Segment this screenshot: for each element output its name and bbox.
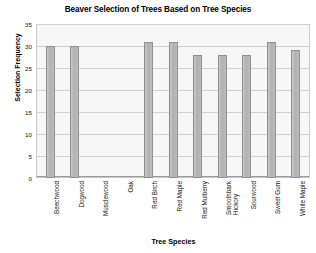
- x-tick-slot: Red Mulberry: [185, 178, 210, 236]
- x-tick-slot: Sourwood: [234, 178, 259, 236]
- bar-slot: [210, 24, 235, 178]
- y-tick-label: 5: [0, 153, 32, 160]
- bar-chart-figure: Beaver Selection of Trees Based on Tree …: [0, 0, 316, 253]
- bar-slot: [136, 24, 161, 178]
- y-tick-label: 20: [0, 87, 32, 94]
- bar: [169, 42, 178, 178]
- x-tick-label: Oak: [127, 181, 134, 193]
- y-tick-label: 25: [0, 65, 32, 72]
- x-tick-slot: Red Maple: [161, 178, 186, 236]
- bar: [193, 55, 202, 178]
- y-tick-label: 10: [0, 131, 32, 138]
- x-tick-label: Dogwood: [78, 181, 85, 208]
- bar: [46, 46, 55, 178]
- y-tick-label: 0: [0, 175, 32, 182]
- x-tick-slot: Sweet Gum: [259, 178, 284, 236]
- y-tick-label: 35: [0, 21, 32, 28]
- bar: [291, 50, 300, 178]
- y-tick-label: 15: [0, 109, 32, 116]
- x-tick-slot: Musclewood: [87, 178, 112, 236]
- bar-slot: [234, 24, 259, 178]
- x-tick-slot: Dogwood: [63, 178, 88, 236]
- x-tick-slot: White Maple: [283, 178, 308, 236]
- bar-slot: [38, 24, 63, 178]
- x-tick-label: Sweet Gum: [274, 181, 281, 214]
- x-axis-label: Tree Species: [36, 237, 311, 246]
- bar: [218, 55, 227, 178]
- chart-title: Beaver Selection of Trees Based on Tree …: [0, 5, 316, 14]
- bar-slot: [87, 24, 112, 178]
- bar-slot: [185, 24, 210, 178]
- x-tick-label: Red Maple: [176, 181, 183, 211]
- bar-slot: [259, 24, 284, 178]
- x-tick-slot: Oak: [112, 178, 137, 236]
- bar-slot: [161, 24, 186, 178]
- bar: [144, 42, 153, 178]
- bar: [70, 46, 79, 178]
- bar-slot: [112, 24, 137, 178]
- x-tick-label: Sourwood: [250, 181, 257, 209]
- bar-slot: [63, 24, 88, 178]
- x-tick-slot: Smoothbark Hickory: [210, 178, 235, 236]
- bar-slot: [283, 24, 308, 178]
- x-tick-label: Red Mulberry: [201, 181, 208, 219]
- bar: [242, 55, 251, 178]
- x-tick-label: Musclewood: [102, 181, 109, 216]
- x-tick-slot: Red Birch: [136, 178, 161, 236]
- x-tick-label: White Maple: [299, 181, 306, 216]
- bar-series: [36, 24, 310, 178]
- x-tick-label: Red Birch: [151, 181, 158, 209]
- y-tick-label: 30: [0, 43, 32, 50]
- x-tick-label: Beechwood: [53, 181, 60, 214]
- x-axis-tick-labels: BeechwoodDogwoodMusclewoodOakRed BirchRe…: [36, 178, 310, 236]
- bar: [267, 42, 276, 178]
- x-tick-slot: Beechwood: [38, 178, 63, 236]
